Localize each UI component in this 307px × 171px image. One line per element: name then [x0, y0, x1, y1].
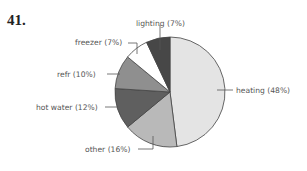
label-lighting: lighting (7%): [136, 19, 185, 28]
label-hot-water: hot water (12%): [36, 103, 98, 112]
label-freezer: freezer (7%): [75, 38, 122, 47]
label-heating: heating (48%): [236, 86, 290, 95]
pie-chart: lighting (7%) freezer (7%) refr (10%) ho…: [0, 0, 307, 171]
slice-heating: [170, 37, 225, 147]
label-other: other (16%): [85, 145, 130, 154]
pie-slices: [115, 37, 225, 147]
label-refr: refr (10%): [57, 70, 96, 79]
